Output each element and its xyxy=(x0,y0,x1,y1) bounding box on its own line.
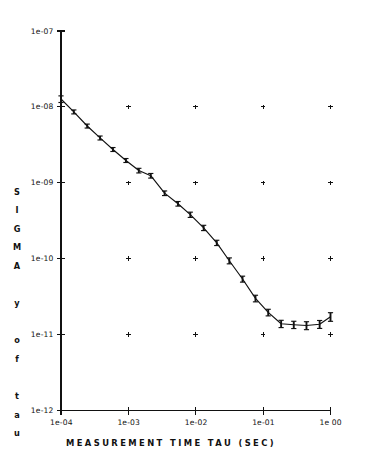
chart-canvas: 1e-041e-031e-021e-011e 00 1e-071e-081e-0… xyxy=(0,0,368,469)
y-axis-title-letter: f xyxy=(15,354,19,364)
y-tick-label: 1e-07 xyxy=(31,27,54,36)
x-tick-label: 1e-03 xyxy=(117,418,140,427)
grid-marks xyxy=(126,105,333,337)
x-tick-label: 1e-01 xyxy=(252,418,275,427)
y-axis-title-letter: G xyxy=(14,224,21,234)
x-tick-labels: 1e-041e-031e-021e-011e 00 xyxy=(50,418,342,427)
y-axis-title-letter: y xyxy=(14,298,20,308)
data-point xyxy=(328,313,333,322)
y-axis-title-letter: S xyxy=(14,187,20,197)
y-axis-title: SIGMAyoftau xyxy=(13,187,21,439)
y-axis-title-letter: t xyxy=(15,391,19,401)
y-tick-labels: 1e-071e-081e-091e-101e-111e-12 xyxy=(31,27,54,416)
series-polyline xyxy=(61,99,331,325)
x-axis-title: MEASUREMENT TIME TAU (SEC) xyxy=(66,438,276,448)
x-tick-label: 1e-02 xyxy=(185,418,208,427)
y-axis-title-letter: a xyxy=(14,410,20,420)
y-axis-title-letter: M xyxy=(13,242,21,252)
y-tick-label: 1e-10 xyxy=(31,254,54,263)
y-axis-title-letter: A xyxy=(14,261,21,271)
y-axis-title-letter: o xyxy=(14,335,20,345)
axes xyxy=(57,31,331,415)
x-tick-label: 1e-04 xyxy=(50,418,73,427)
data-series xyxy=(58,96,333,330)
y-axis-title-letter: I xyxy=(15,205,18,215)
y-tick-label: 1e-09 xyxy=(31,178,54,187)
y-tick-label: 1e-12 xyxy=(31,406,54,415)
y-tick-label: 1e-08 xyxy=(31,102,54,111)
y-tick-label: 1e-11 xyxy=(31,330,54,339)
x-tick-label: 1e 00 xyxy=(320,418,342,427)
allan-deviation-chart: 1e-041e-031e-021e-011e 00 1e-071e-081e-0… xyxy=(0,0,368,469)
y-axis-title-letter: u xyxy=(14,428,20,438)
